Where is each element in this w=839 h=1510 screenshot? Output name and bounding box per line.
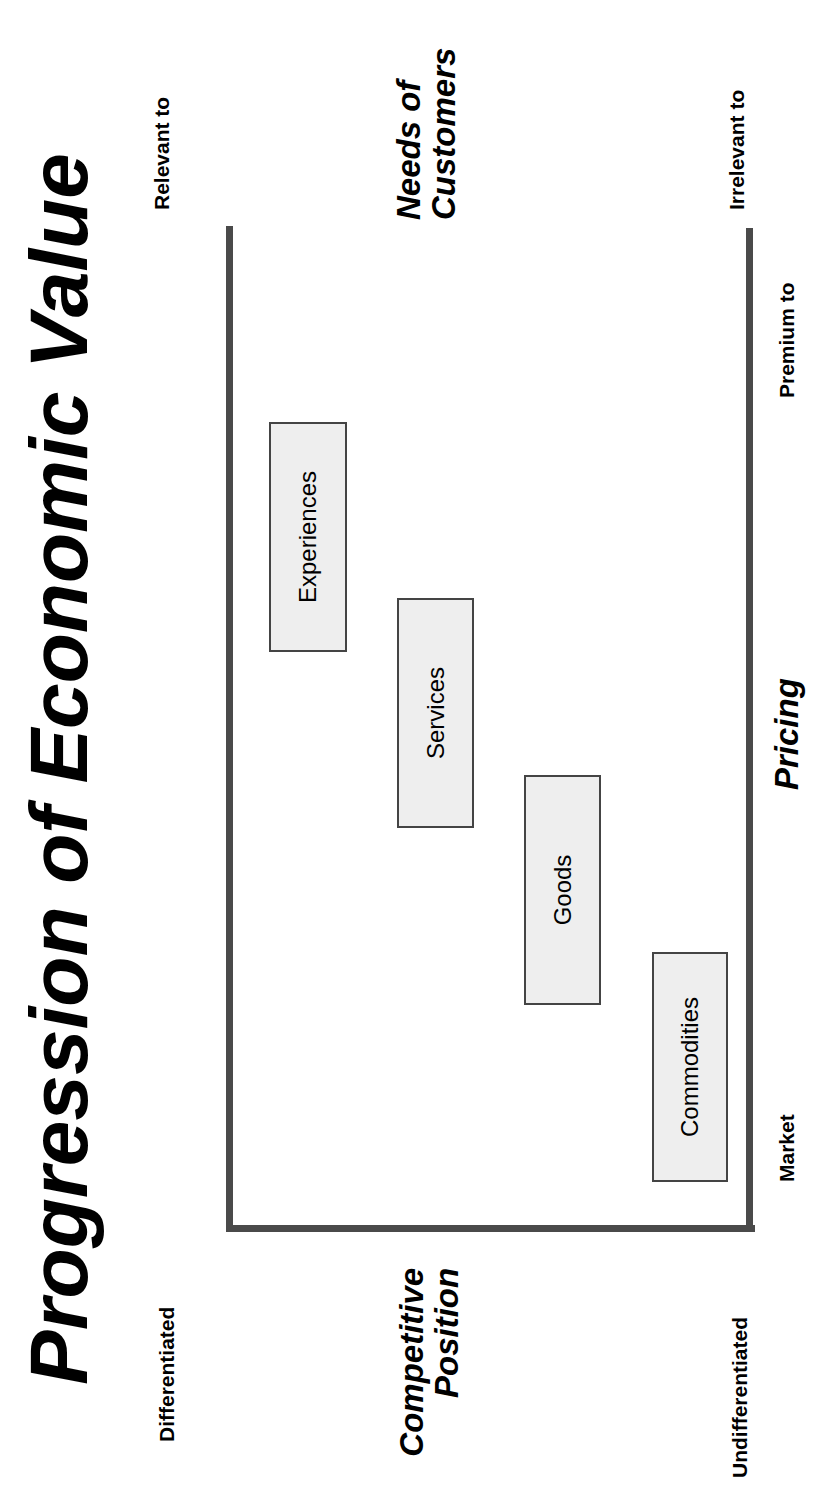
horizontal-axis-title: Pricing: [770, 678, 805, 790]
diagram-title: Progression of Economic Value: [18, 153, 100, 1385]
diagram-page: Progression of Economic Value Relevant t…: [0, 0, 839, 1510]
horizontal-right-label: Premium to: [775, 282, 798, 398]
horizontal-left-label: Market: [775, 1114, 798, 1182]
frame-bottom-line: [746, 228, 753, 1232]
stage-experiences: Experiences: [269, 422, 347, 652]
top-axis-title: Needs of Customers: [392, 48, 461, 220]
top-left-label: Relevant to: [150, 97, 173, 210]
vertical-axis-title: Competitive Position: [395, 1268, 464, 1468]
top-right-label: Irrelevant to: [725, 90, 748, 210]
vertical-axis-title-line1: Competitive: [395, 1268, 430, 1468]
frame-top-line: [226, 226, 233, 1230]
vertical-axis-title-line2: Position: [430, 1268, 465, 1468]
vertical-top-label: Differentiated: [155, 1307, 178, 1442]
top-axis-title-line1: Needs of: [392, 48, 427, 220]
stage-goods: Goods: [524, 775, 601, 1005]
stage-commodities: Commodities: [652, 952, 728, 1182]
stage-services: Services: [397, 598, 474, 828]
top-axis-title-line2: Customers: [427, 48, 462, 220]
frame-left-line: [226, 1225, 755, 1232]
vertical-bottom-label: Undifferentiated: [728, 1317, 751, 1478]
